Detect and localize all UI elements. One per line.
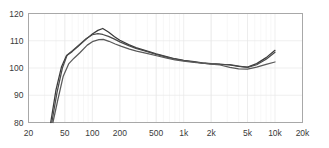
chart-canvas: 8090100110120 20501002005001k2k5k10k20k xyxy=(0,0,329,148)
x-tick-label: 200 xyxy=(113,128,127,138)
x-tick-label: 2k xyxy=(207,128,217,138)
x-tick-label: 500 xyxy=(149,128,163,138)
y-tick-label: 80 xyxy=(14,118,24,128)
x-tick-label: 100 xyxy=(85,128,99,138)
y-tick-label: 90 xyxy=(14,90,24,100)
y-tick-label: 110 xyxy=(10,36,24,46)
frequency-response-chart: 8090100110120 20501002005001k2k5k10k20k xyxy=(0,0,329,148)
y-tick-label: 120 xyxy=(9,9,23,19)
x-tick-label: 1k xyxy=(179,128,189,138)
x-tick-label: 20 xyxy=(24,128,34,138)
y-tick-label: 100 xyxy=(9,63,23,73)
chart-background xyxy=(0,0,329,148)
x-tick-label: 50 xyxy=(60,128,70,138)
x-tick-label: 5k xyxy=(243,128,253,138)
x-tick-label: 10k xyxy=(268,128,282,138)
x-tick-label: 20k xyxy=(296,128,310,138)
